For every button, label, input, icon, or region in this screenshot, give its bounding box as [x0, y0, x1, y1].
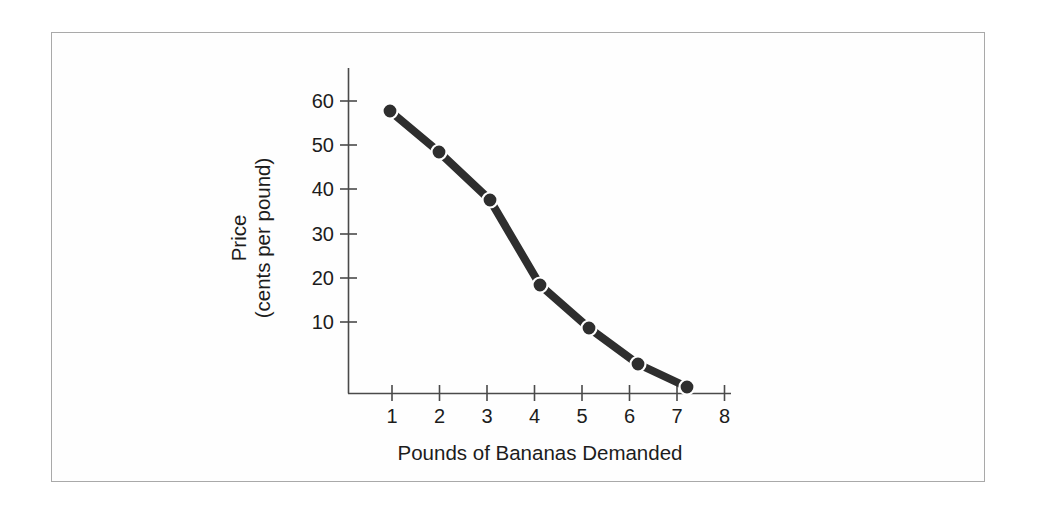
x-tick-label-3: 3: [481, 405, 492, 427]
y-tick-label-20: 20: [312, 267, 334, 289]
y-tick-label-50: 50: [312, 134, 334, 156]
y-axis-title-line2: (cents per pound): [251, 158, 274, 319]
demand-curve-chart: 60 50 40 30 20 10 1 2 3 4 5 6 7 8: [0, 0, 1040, 510]
y-tick-label-60: 60: [312, 90, 334, 112]
y-tick-label-30: 30: [312, 223, 334, 245]
x-tick-label-7: 7: [671, 405, 682, 427]
x-axis-title: Pounds of Bananas Demanded: [398, 441, 683, 464]
y-axis-tick-labels: 60 50 40 30 20 10: [312, 90, 334, 333]
data-point-4: [533, 278, 548, 293]
data-point-3: [483, 193, 498, 208]
axes: [348, 68, 731, 394]
x-tick-label-6: 6: [624, 405, 635, 427]
data-point-1: [383, 104, 398, 119]
data-point-2: [432, 145, 447, 160]
x-tick-label-2: 2: [434, 405, 445, 427]
y-axis-title-line1: Price: [227, 215, 250, 262]
data-point-6: [631, 357, 646, 372]
x-tick-label-8: 8: [719, 405, 730, 427]
y-tick-label-10: 10: [312, 311, 334, 333]
data-point-7: [680, 380, 695, 395]
x-axis-tick-labels: 1 2 3 4 5 6 7 8: [386, 405, 730, 427]
y-tick-label-40: 40: [312, 178, 334, 200]
data-point-5: [582, 321, 597, 336]
y-axis-title: Price (cents per pound): [227, 158, 274, 319]
x-tick-label-4: 4: [529, 405, 540, 427]
chart-svg: 60 50 40 30 20 10 1 2 3 4 5 6 7 8: [0, 0, 1040, 510]
x-tick-label-5: 5: [576, 405, 587, 427]
x-tick-label-1: 1: [386, 405, 397, 427]
